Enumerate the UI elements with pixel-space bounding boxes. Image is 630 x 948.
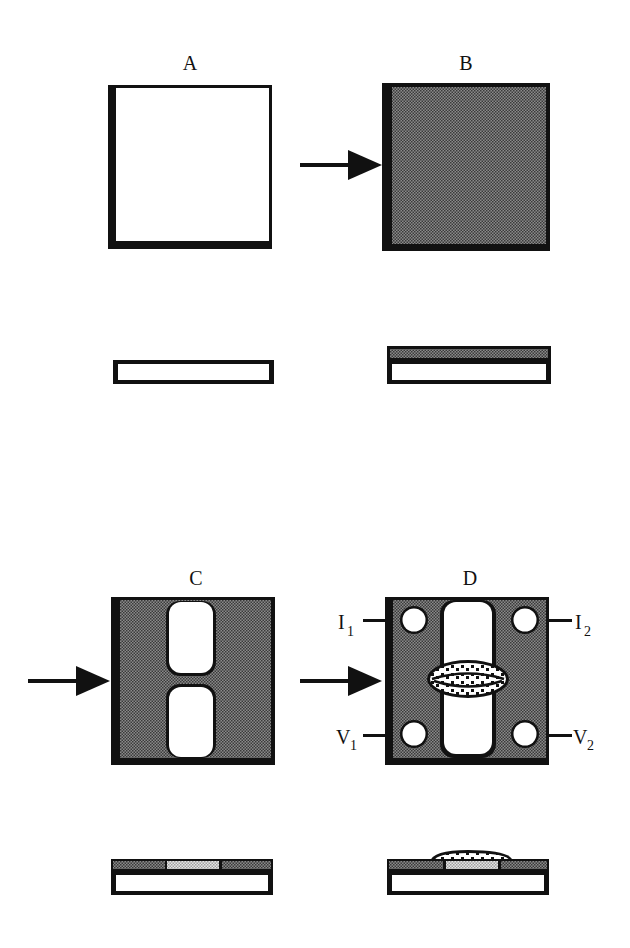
svg-text:1: 1 (347, 624, 354, 639)
arrow-icon-c-to-d (300, 666, 382, 696)
patterned-film-cross-section-c (111, 859, 273, 895)
lead-v1: V 1 (336, 726, 386, 753)
lead-label-i1: I (338, 611, 345, 633)
panel-a: A (108, 52, 274, 384)
panel-label-a: A (183, 52, 198, 74)
lead-label-i2: I (575, 611, 582, 633)
contact-pad-i2 (514, 609, 537, 632)
panel-d: D I 1 (336, 567, 594, 895)
panel-label-b: B (459, 52, 472, 74)
process-diagram: A B C (0, 0, 630, 948)
panel-label-d: D (463, 567, 477, 589)
arrow-icon-into-c (28, 666, 110, 696)
substrate-top-view-a (108, 85, 272, 249)
contact-pad-v2 (514, 723, 537, 746)
arrow-icon-a-to-b (300, 150, 382, 180)
panel-label-c: C (189, 567, 202, 589)
svg-text:1: 1 (350, 738, 357, 753)
panel-c: C (111, 567, 275, 895)
lead-i2: I 2 (548, 611, 591, 639)
lead-label-v2: V (573, 726, 588, 748)
svg-text:2: 2 (584, 624, 591, 639)
coated-substrate-top-view-b (382, 83, 550, 251)
deposited-sample-oval (427, 660, 509, 698)
opening-bottom (169, 687, 213, 757)
svg-text:2: 2 (587, 738, 594, 753)
lead-v2: V 2 (548, 726, 594, 753)
contact-pad-v1 (403, 723, 426, 746)
opening-top (169, 602, 213, 673)
coated-substrate-cross-section-b (387, 346, 551, 384)
lead-label-v1: V (336, 726, 351, 748)
device-cross-section-d (387, 850, 549, 895)
substrate-cross-section-a (113, 360, 274, 384)
device-top-view-d (385, 597, 549, 765)
patterned-film-top-view-c (111, 597, 275, 765)
lead-i1: I 1 (338, 611, 386, 639)
contact-pad-i1 (403, 609, 426, 632)
panel-b: B (382, 52, 551, 384)
